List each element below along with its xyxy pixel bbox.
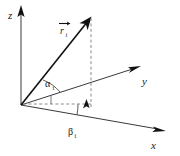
y-axis	[21, 66, 141, 105]
y-axis-label: y	[141, 75, 147, 87]
vector-label-base: r	[60, 25, 64, 36]
vector-label-group: r i	[59, 22, 71, 38]
alpha-subscript: i	[53, 84, 55, 91]
beta-label: β	[68, 126, 73, 137]
y-axis-line	[21, 70, 131, 106]
x-axis-arrowhead	[152, 126, 166, 132]
vector-line	[21, 24, 86, 106]
figure-root: z y x r i α i β i	[0, 0, 180, 156]
alpha-label: α	[45, 78, 51, 89]
beta-subscript: i	[75, 132, 77, 139]
vector-label-subscript: i	[66, 31, 68, 38]
z-axis-label: z	[7, 9, 13, 21]
alpha-label-group: α i	[45, 78, 55, 91]
position-vector-r-i	[21, 17, 92, 106]
x-axis-label: x	[150, 139, 156, 151]
z-axis	[17, 5, 24, 105]
beta-angle-arc	[77, 104, 78, 115]
beta-label-group: β i	[68, 126, 77, 139]
x-axis-line	[21, 105, 155, 129]
coordinate-system-diagram: z y x r i α i β i	[0, 0, 180, 156]
x-axis	[21, 105, 166, 132]
